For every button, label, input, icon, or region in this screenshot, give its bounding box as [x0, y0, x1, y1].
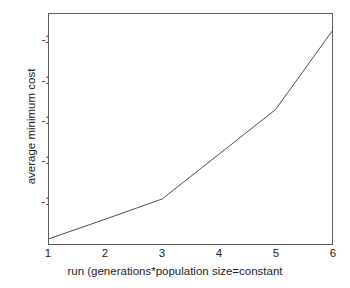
x-tick-label: 2	[93, 247, 117, 259]
plot-area	[48, 13, 333, 245]
chart-figure: -12 -13 -14 -15 -16 1 2 3 4 5 6 run (gen…	[0, 0, 350, 288]
x-tick-label: 4	[207, 247, 231, 259]
x-axis-title: run (generations*population size=constan…	[0, 265, 350, 278]
x-tick-label: 1	[36, 247, 60, 259]
y-axis-title: average minimum cost	[25, 27, 38, 227]
x-tick-label: 6	[321, 247, 345, 259]
x-tick-label: 5	[264, 247, 288, 259]
data-series-line	[49, 14, 332, 244]
x-tick-label: 3	[150, 247, 174, 259]
